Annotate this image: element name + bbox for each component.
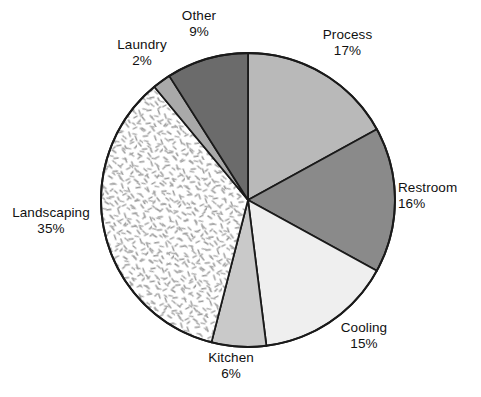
pie-label-kitchen-value: 6% (188, 366, 274, 382)
pie-label-restroom-value: 16% (398, 196, 481, 212)
pie-chart: Other 9% Process 17% Restroom 16% Coolin… (0, 0, 481, 397)
pie-label-cooling: Cooling 15% (320, 320, 408, 353)
pie-label-kitchen-name: Kitchen (188, 350, 274, 366)
pie-label-other-name: Other (155, 8, 243, 24)
pie-label-laundry-value: 2% (100, 53, 184, 69)
pie-label-landscaping-name: Landscaping (2, 205, 100, 221)
pie-label-kitchen: Kitchen 6% (188, 350, 274, 383)
pie-label-restroom-name: Restroom (398, 180, 481, 196)
pie-label-landscaping: Landscaping 35% (2, 205, 100, 238)
pie-label-landscaping-value: 35% (2, 221, 100, 237)
pie-label-other: Other 9% (155, 8, 243, 41)
pie-label-laundry: Laundry 2% (100, 37, 184, 70)
pie-label-restroom: Restroom 16% (398, 180, 481, 213)
pie-label-cooling-name: Cooling (320, 320, 408, 336)
pie-label-process-value: 17% (300, 43, 395, 59)
pie-label-process-name: Process (300, 27, 395, 43)
pie-label-cooling-value: 15% (320, 336, 408, 352)
pie-label-process: Process 17% (300, 27, 395, 60)
pie-label-laundry-name: Laundry (100, 37, 184, 53)
